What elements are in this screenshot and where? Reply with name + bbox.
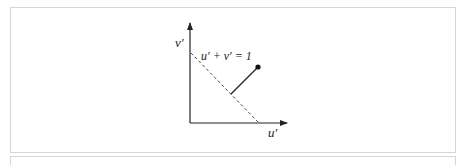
data-point [255, 64, 260, 69]
constraint-label: u′ + v′ = 1 [201, 49, 252, 63]
diagram-uv-plane: v′ u′ + v′ = 1 u′ [0, 0, 461, 165]
x-axis-label: u′ [268, 125, 278, 140]
constraint-line-dashed [191, 53, 258, 122]
projection-segment [231, 67, 258, 94]
y-axis-label: v′ [175, 35, 184, 50]
